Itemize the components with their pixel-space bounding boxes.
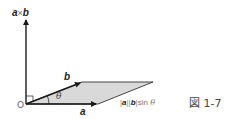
- angle-theta-label: θ: [56, 92, 61, 101]
- cross-product-label: a×b: [12, 8, 29, 18]
- area-magnitude-label: |a||b|sin θ: [120, 99, 155, 107]
- origin-label: O: [17, 101, 24, 110]
- figure-caption: 図 1-7: [189, 98, 221, 109]
- vector-a-label: a: [80, 107, 86, 117]
- vector-b-label: b: [64, 72, 70, 82]
